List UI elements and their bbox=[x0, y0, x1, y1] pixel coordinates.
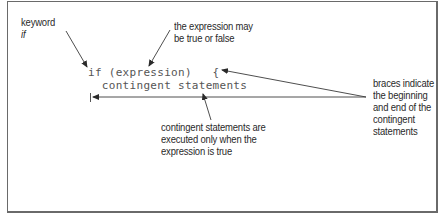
arrows-layer bbox=[0, 0, 442, 221]
opening-brace-arrow bbox=[222, 70, 366, 97]
contingent-arrow bbox=[203, 94, 211, 120]
expression-arrow bbox=[149, 30, 170, 66]
keyword-arrow bbox=[66, 31, 87, 67]
